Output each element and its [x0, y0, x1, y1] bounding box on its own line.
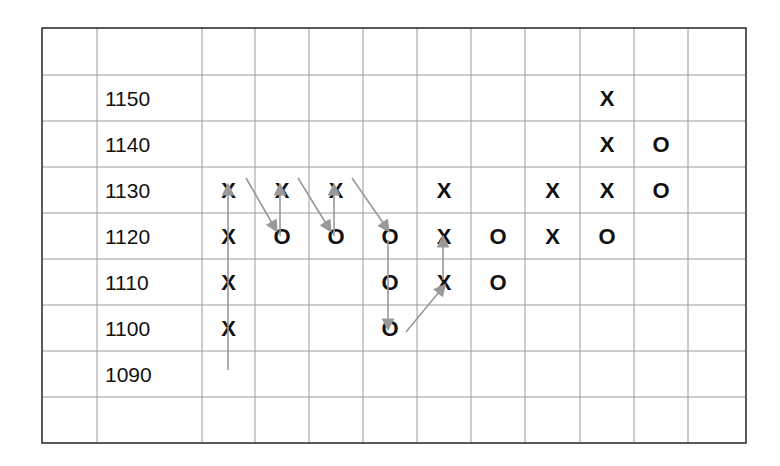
path-arrow	[406, 286, 444, 332]
o-mark: O	[381, 224, 398, 249]
price-level-label: 1110	[105, 271, 149, 294]
o-mark: O	[273, 224, 290, 249]
price-level-label: 1120	[105, 225, 150, 248]
x-mark: X	[600, 86, 615, 111]
price-path-arrows	[228, 178, 444, 370]
price-level-label: 1140	[105, 133, 150, 156]
x-mark: X	[437, 178, 452, 203]
price-labels: 1150114011301120111011001090	[105, 87, 152, 386]
o-mark: O	[489, 270, 506, 295]
x-mark: X	[275, 178, 290, 203]
o-mark: O	[489, 224, 506, 249]
x-mark: X	[545, 224, 560, 249]
price-level-label: 1150	[105, 87, 150, 110]
o-mark: O	[381, 316, 398, 341]
o-mark: O	[327, 224, 344, 249]
x-mark: X	[437, 224, 452, 249]
price-level-label: 1100	[105, 317, 150, 340]
path-arrow	[298, 178, 330, 230]
path-arrow	[352, 178, 388, 230]
x-mark: X	[329, 178, 344, 203]
x-mark: X	[600, 178, 615, 203]
path-arrow	[246, 178, 276, 230]
point-and-figure-chart: 1150114011301120111011001090 XXXXXOXOOOO…	[0, 0, 780, 466]
x-mark: X	[600, 132, 615, 157]
o-mark: O	[652, 178, 669, 203]
price-level-label: 1090	[105, 363, 152, 386]
o-mark: O	[381, 270, 398, 295]
price-level-label: 1130	[105, 179, 150, 202]
o-mark: O	[598, 224, 615, 249]
x-mark: X	[545, 178, 560, 203]
o-mark: O	[652, 132, 669, 157]
